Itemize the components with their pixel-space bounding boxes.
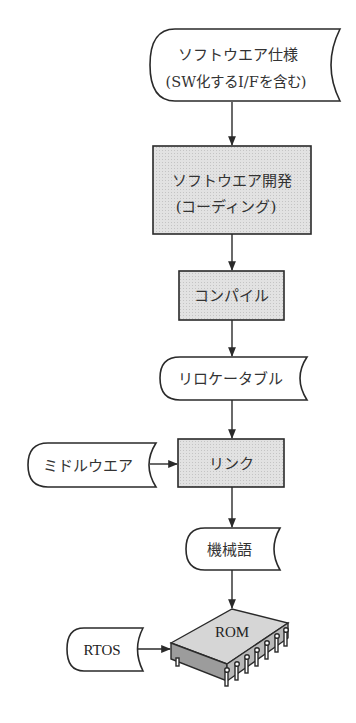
- middleware-label: ミドルウエア: [43, 457, 133, 475]
- dev-line1: ソフトウエア開発: [172, 172, 292, 190]
- dev-line2: (コーディング): [176, 198, 277, 216]
- spec-line2: (SW化するI/Fを含む): [166, 74, 307, 90]
- node-rom-chip: ROM: [171, 609, 288, 686]
- node-machine-code: 機械語: [186, 528, 280, 570]
- spec-line1: ソフトウエア仕様: [178, 46, 298, 64]
- machine-code-label: 機械語: [207, 541, 252, 559]
- node-software-spec: ソフトウエア仕様 (SW化するI/Fを含む): [150, 29, 340, 101]
- node-software-development: ソフトウエア開発 (コーディング): [153, 146, 311, 234]
- relocatable-label: リロケータブル: [178, 370, 283, 388]
- process-box: [153, 146, 311, 234]
- node-middleware: ミドルウエア: [28, 443, 156, 487]
- stored-data-shape: [150, 29, 340, 101]
- link-label: リンク: [209, 455, 254, 473]
- node-link: リンク: [178, 439, 284, 487]
- rtos-label: RTOS: [83, 642, 120, 658]
- node-compile: コンパイル: [179, 271, 284, 320]
- flowchart-canvas: ソフトウエア仕様 (SW化するI/Fを含む) ソフトウエア開発 (コーディング)…: [0, 0, 356, 723]
- node-rtos: RTOS: [67, 628, 143, 671]
- compile-label: コンパイル: [194, 287, 269, 305]
- rom-label: ROM: [215, 624, 249, 640]
- node-relocatable: リロケータブル: [160, 357, 307, 400]
